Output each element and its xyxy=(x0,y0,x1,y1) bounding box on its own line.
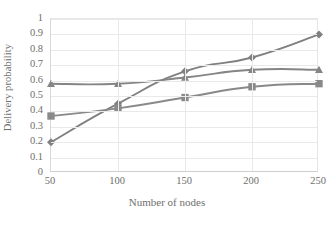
gridline-horizontal xyxy=(51,19,317,20)
gridline-horizontal xyxy=(51,142,317,143)
gridline-horizontal xyxy=(51,158,317,159)
gridline-horizontal xyxy=(51,50,317,51)
x-axis-title-label: Number of nodes xyxy=(129,196,205,208)
y-axis-tick-label: 1 xyxy=(38,13,43,23)
y-axis-tick-label: 0.4 xyxy=(30,105,43,115)
gridline-horizontal xyxy=(51,96,317,97)
y-axis-tick-label: 0.7 xyxy=(30,59,43,69)
y-axis-tick-label: 0.5 xyxy=(30,90,43,100)
y-axis-tick-label: 0.8 xyxy=(30,44,43,54)
gridline-vertical xyxy=(252,19,253,171)
gridline-horizontal xyxy=(51,34,317,35)
gridline-horizontal xyxy=(51,81,317,82)
y-axis-title: Delivery probability xyxy=(0,0,16,175)
x-axis-tick-label: 250 xyxy=(310,175,326,187)
x-axis-tick-label: 100 xyxy=(109,175,125,187)
y-axis-tick-label: 0.6 xyxy=(30,75,43,85)
series-square-marker xyxy=(47,112,54,119)
y-axis-title-label: Delivery probability xyxy=(3,44,14,131)
gridline-vertical xyxy=(118,19,119,171)
gridline-horizontal xyxy=(51,111,317,112)
gridline-horizontal xyxy=(51,65,317,66)
x-axis-tick-label: 200 xyxy=(243,175,259,187)
x-axis-tick-labels: 50100150200250 xyxy=(50,175,318,191)
y-axis-tick-label: 0 xyxy=(38,167,43,177)
gridline-vertical xyxy=(185,19,186,171)
x-axis-tick-label: 50 xyxy=(45,175,56,187)
delivery-probability-chart: Delivery probability 00.10.20.30.40.50.6… xyxy=(0,0,334,236)
y-axis-tick-label: 0.2 xyxy=(30,136,43,146)
y-axis-tick-labels: 00.10.20.30.40.50.60.70.80.91 xyxy=(16,13,46,172)
y-axis-tick-label: 0.9 xyxy=(30,28,43,38)
gridline-horizontal xyxy=(51,127,317,128)
y-axis-tick-label: 0.3 xyxy=(30,121,43,131)
x-axis-title: Number of nodes xyxy=(0,196,334,208)
plot-area xyxy=(50,18,318,172)
x-axis-tick-label: 150 xyxy=(176,175,192,187)
y-axis-tick-label: 0.1 xyxy=(30,152,43,162)
